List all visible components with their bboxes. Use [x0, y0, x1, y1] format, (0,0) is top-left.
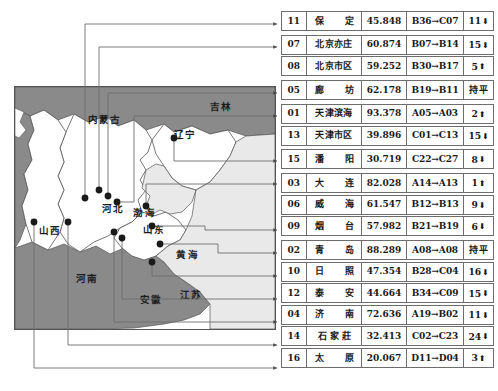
- arrow-down-icon: ⬇: [479, 222, 486, 230]
- map-panel: 内蒙古 吉林 辽宁 河北 山西 山东 河南 安徽 江苏 渤海 黄海: [14, 86, 276, 330]
- cell-range-change: A05→A03: [407, 105, 464, 123]
- table-row[interactable]: 14石家莊32.413C02→C2324⬇: [281, 326, 494, 346]
- table-row[interactable]: 11保 定45.848B36→C0711⬇: [281, 11, 494, 31]
- cell-city-name: 青 岛: [307, 241, 362, 259]
- table-row[interactable]: 08北京市区59.252B30→B175⬆: [281, 56, 494, 76]
- cell-rank-delta: 15⬇: [464, 36, 493, 54]
- cell-rank: 12: [282, 284, 307, 302]
- cell-rank-delta: 15⬇: [464, 127, 493, 145]
- table-row[interactable]: 09烟 台57.982B21→B196⬇: [281, 216, 494, 236]
- cell-score: 30.719: [362, 150, 407, 168]
- map-label-shandong: 山东: [143, 224, 165, 235]
- cell-city-name: 北京亦庄: [307, 36, 362, 54]
- arrow-down-icon: ⬇: [482, 17, 489, 25]
- rank-delta-value: 6: [472, 222, 478, 231]
- cell-rank: 02: [282, 241, 307, 259]
- cell-score: 72.636: [362, 306, 407, 324]
- cell-rank-delta: 2⬆: [464, 105, 493, 123]
- table-row[interactable]: 05廊 坊62.178B19→B11持平: [281, 80, 494, 100]
- cell-score: 62.178: [362, 81, 407, 99]
- arrow-down-icon: ⬇: [482, 311, 489, 319]
- cell-score: 44.664: [362, 284, 407, 302]
- cell-rank: 13: [282, 127, 307, 145]
- cell-rank: 03: [282, 174, 307, 192]
- table-row[interactable]: 04济 南72.636A19→B0211⬇: [281, 305, 494, 325]
- map-label-neimenggu: 内蒙古: [88, 114, 122, 125]
- cell-rank: 01: [282, 105, 307, 123]
- rank-delta-value: 15: [468, 131, 481, 140]
- cell-score: 59.252: [362, 57, 407, 75]
- rank-delta-value: 15: [468, 289, 481, 298]
- cell-rank: 11: [282, 12, 307, 30]
- cell-rank: 09: [282, 217, 307, 235]
- table-row[interactable]: 07北京亦庄60.874B07→B1415⬇: [281, 35, 494, 55]
- cell-range-change: B34→C09: [407, 284, 464, 302]
- cell-city-name: 天津市区: [307, 127, 362, 145]
- arrow-down-icon: ⬇: [482, 289, 489, 297]
- cell-city-name: 泰 安: [307, 284, 362, 302]
- cell-range-change: B30→B17: [407, 57, 464, 75]
- cell-range-change: B21→B19: [407, 217, 464, 235]
- rank-delta-value: 8: [472, 155, 478, 164]
- table-row[interactable]: 02青 岛88.289A08→A08持平: [281, 240, 494, 260]
- cell-range-change: A14→A13: [407, 174, 464, 192]
- cell-city-name: 保 定: [307, 12, 362, 30]
- map-label-shanxi: 山西: [39, 225, 61, 236]
- arrow-down-icon: ⬇: [479, 155, 486, 163]
- table-row[interactable]: 06威 海61.547B12→B139⬇: [281, 195, 494, 215]
- cell-city-name: 日 照: [307, 263, 362, 281]
- table-row[interactable]: 10日 照47.354B28→C0416⬇: [281, 262, 494, 282]
- cell-city-name: 威 海: [307, 196, 362, 214]
- cell-range-change: B12→B13: [407, 196, 464, 214]
- cell-range-change: C02→C23: [407, 327, 464, 345]
- arrow-down-icon: ⬇: [482, 41, 489, 49]
- cell-rank-delta: 3⬆: [464, 349, 493, 367]
- cell-rank: 15: [282, 150, 307, 168]
- rank-delta-value: 9: [472, 200, 478, 209]
- cell-rank: 08: [282, 57, 307, 75]
- cell-rank-delta: 8⬇: [464, 150, 493, 168]
- cell-score: 47.354: [362, 263, 407, 281]
- cell-rank: 07: [282, 36, 307, 54]
- cell-city-name: 廊 坊: [307, 81, 362, 99]
- table-row[interactable]: 12泰 安44.664B34→C0915⬇: [281, 283, 494, 303]
- map-label-bohai: 渤海: [133, 207, 156, 218]
- cell-rank-delta: 16⬇: [464, 263, 493, 281]
- arrow-down-icon: ⬇: [482, 132, 489, 140]
- cell-score: 32.413: [362, 327, 407, 345]
- table-row[interactable]: 15潘 阳30.719C22→C278⬇: [281, 149, 494, 169]
- cell-score: 45.848: [362, 12, 407, 30]
- cell-rank-delta: 6⬇: [464, 217, 493, 235]
- cell-range-change: C22→C27: [407, 150, 464, 168]
- cell-score: 82.028: [362, 174, 407, 192]
- table-row[interactable]: 01天津滨海93.378A05→A032⬆: [281, 104, 494, 124]
- cell-score: 61.547: [362, 196, 407, 214]
- cell-rank-delta: 11⬇: [464, 12, 493, 30]
- rank-delta-value: 11: [468, 310, 481, 319]
- table-row[interactable]: 16太 原20.067D11→D043⬆: [281, 348, 494, 368]
- rank-delta-value: 3: [472, 353, 478, 362]
- map-label-liaoning: 辽宁: [174, 129, 196, 140]
- cell-rank: 16: [282, 349, 307, 367]
- cell-range-change: B19→B11: [407, 81, 464, 99]
- map-label-jilin: 吉林: [210, 101, 232, 112]
- cell-range-change: A08→A08: [407, 241, 464, 259]
- cell-range-change: B07→B14: [407, 36, 464, 54]
- rank-delta-value: 16: [468, 267, 481, 276]
- map-label-jiangsu: 江苏: [180, 289, 202, 300]
- cell-rank: 05: [282, 81, 307, 99]
- map-label-hebei: 河北: [102, 203, 124, 214]
- cell-score: 20.067: [362, 349, 407, 367]
- map-svg: 内蒙古 吉林 辽宁 河北 山西 山东 河南 安徽 江苏 渤海 黄海: [14, 86, 276, 330]
- table-row[interactable]: 13天津市区39.896C01→C1315⬇: [281, 126, 494, 146]
- cell-score: 88.289: [362, 241, 407, 259]
- rank-delta-value: 1: [472, 178, 478, 187]
- rank-delta-value: 5: [472, 62, 478, 71]
- arrow-down-icon: ⬇: [482, 332, 489, 340]
- table-row[interactable]: 03大 连82.028A14→A131⬆: [281, 173, 494, 193]
- map-label-henan: 河南: [76, 273, 98, 284]
- cell-range-change: A19→B02: [407, 306, 464, 324]
- cell-rank-delta: 1⬆: [464, 174, 493, 192]
- rank-delta-value: 2: [472, 109, 478, 118]
- arrow-up-icon: ⬆: [479, 354, 486, 362]
